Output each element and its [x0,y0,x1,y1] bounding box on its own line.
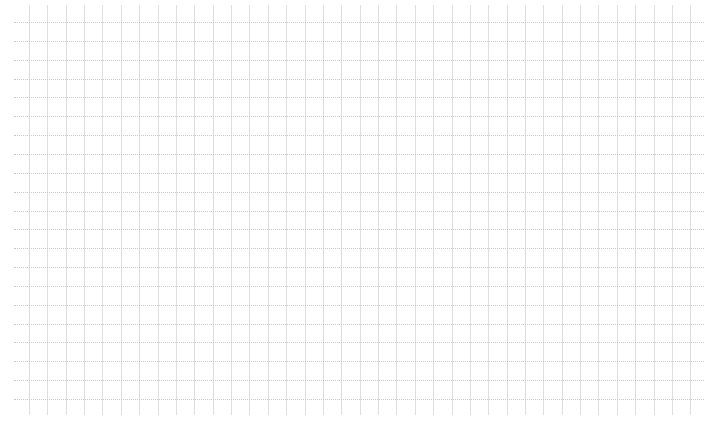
grid-vertical-line [158,5,159,415]
grid-horizontal-line [14,380,704,381]
grid-vertical-line [139,5,140,415]
grid-horizontal-line [14,135,704,136]
grid-vertical-line [690,5,691,415]
grid-horizontal-line [14,324,704,325]
grid-vertical-line [84,5,85,415]
grid-vertical-line [415,5,416,415]
grid-horizontal-line [14,154,704,155]
grid-horizontal-line [14,79,704,80]
grid-horizontal-line [14,173,704,174]
grid-vertical-line [470,5,471,415]
grid-vertical-line [176,5,177,415]
grid-vertical-line [360,5,361,415]
grid-vertical-line [433,5,434,415]
grid-horizontal-line [14,248,704,249]
grid-horizontal-line [14,342,704,343]
grid-horizontal-line [14,211,704,212]
grid-horizontal-line [14,41,704,42]
grid-vertical-line [452,5,453,415]
grid-vertical-line [562,5,563,415]
grid-horizontal-line [14,286,704,287]
grid-vertical-line [525,5,526,415]
grid-horizontal-line [14,192,704,193]
grid-vertical-line [341,5,342,415]
grid-horizontal-line [14,60,704,61]
grid-vertical-line [507,5,508,415]
grid-horizontal-line [14,22,704,23]
grid-vertical-line [672,5,673,415]
grid-vertical-line [323,5,324,415]
grid-vertical-line [378,5,379,415]
grid-vertical-line [488,5,489,415]
grid-vertical-line [231,5,232,415]
grid-vertical-line [286,5,287,415]
grid-vertical-line [249,5,250,415]
grid-vertical-line [543,5,544,415]
grid-vertical-line [66,5,67,415]
grid-vertical-line [268,5,269,415]
grid-horizontal-line [14,305,704,306]
grid-horizontal-line [14,361,704,362]
grid-horizontal-line [14,97,704,98]
grid-vertical-line [396,5,397,415]
grid-vertical-line [617,5,618,415]
grid-horizontal-line [14,399,704,400]
grid-vertical-line [598,5,599,415]
grid-vertical-line [305,5,306,415]
grid-vertical-line [213,5,214,415]
grid-vertical-line [102,5,103,415]
grid-vertical-line [194,5,195,415]
grid-horizontal-line [14,116,704,117]
grid-horizontal-line [14,229,704,230]
grid-horizontal-line [14,267,704,268]
grid-vertical-line [654,5,655,415]
grid-vertical-line [121,5,122,415]
grid-vertical-line [580,5,581,415]
grid-vertical-line [47,5,48,415]
grid-vertical-line [29,5,30,415]
graph-paper-grid [0,0,719,425]
grid-vertical-line [635,5,636,415]
